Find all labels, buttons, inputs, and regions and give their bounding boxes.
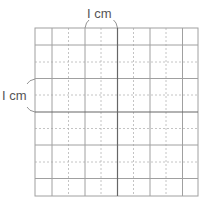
top-cm-label: I cm xyxy=(87,7,112,20)
brackets xyxy=(27,20,118,112)
grid-diagram xyxy=(0,0,204,204)
axis-lines xyxy=(35,28,198,196)
left-cm-label: I cm xyxy=(2,89,27,102)
